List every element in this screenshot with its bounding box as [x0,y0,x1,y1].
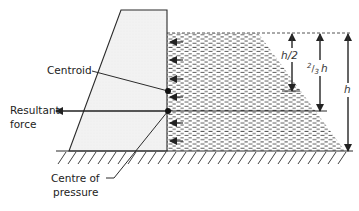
dam-pressure-diagram: h/2 2/3h h Centroid Resultant force Cent… [0,0,359,211]
cop-label-line2: pressure [53,186,98,198]
resultant-force-label-line1: Resultant [10,104,60,116]
fraction-variable: h [321,62,328,74]
centroid-label: Centroid [47,64,92,76]
ground [56,151,353,164]
full-h-label: h [344,83,351,95]
cop-label-line1: Centre of [51,172,100,184]
resultant-force-label-line2: force [10,118,36,130]
fraction-denominator: 3 [315,68,319,76]
centroid-point [165,88,171,94]
centre-of-pressure-point [165,108,171,114]
half-h-label: h/2 [281,49,298,61]
water-body [167,33,350,151]
